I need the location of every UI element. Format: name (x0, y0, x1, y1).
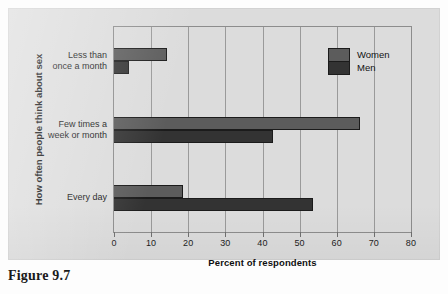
figure-panel: How often people think about sex 0102030… (8, 8, 440, 260)
bar-women (114, 48, 167, 61)
x-axis-tick-label: 70 (369, 238, 379, 248)
x-axis-tick-label: 50 (294, 238, 304, 248)
x-axis-tick (300, 232, 301, 237)
legend-label-men: Men (357, 61, 390, 74)
x-axis-tick-label: 20 (183, 238, 193, 248)
x-axis-tick (188, 232, 189, 237)
bar-men (114, 61, 129, 74)
bar-women (114, 117, 360, 130)
x-axis-tick (151, 232, 152, 237)
x-axis-tick (411, 232, 412, 237)
bar-women (114, 185, 183, 198)
x-axis-tick (337, 232, 338, 237)
chart-legend: Women Men (328, 48, 390, 75)
x-axis-tick-label: 60 (332, 238, 342, 248)
x-axis-tick-label: 80 (406, 238, 416, 248)
legend-swatch-group (328, 48, 350, 75)
legend-label-women: Women (357, 48, 390, 61)
x-axis-tick-label: 0 (111, 238, 116, 248)
y-axis-category-label: Less than once a month (17, 50, 107, 72)
y-axis-category-label: Every day (17, 192, 107, 203)
x-axis-tick-label: 10 (146, 238, 156, 248)
bar-men (114, 130, 273, 143)
x-axis-title: Percent of respondents (113, 257, 412, 268)
y-axis-category-label: Few times a week or month (17, 119, 107, 141)
x-axis-tick (225, 232, 226, 237)
x-axis-tick (114, 232, 115, 237)
legend-swatch-men (329, 62, 349, 74)
figure-caption: Figure 9.7 (8, 268, 70, 284)
x-axis-tick-label: 30 (220, 238, 230, 248)
bar-group (114, 185, 411, 211)
bar-men (114, 198, 313, 211)
x-axis-tick (263, 232, 264, 237)
x-axis-tick-label: 40 (257, 238, 267, 248)
legend-label-group: Women Men (357, 48, 390, 74)
x-axis-tick (374, 232, 375, 237)
legend-swatch-women (329, 49, 349, 62)
bar-group (114, 117, 411, 143)
